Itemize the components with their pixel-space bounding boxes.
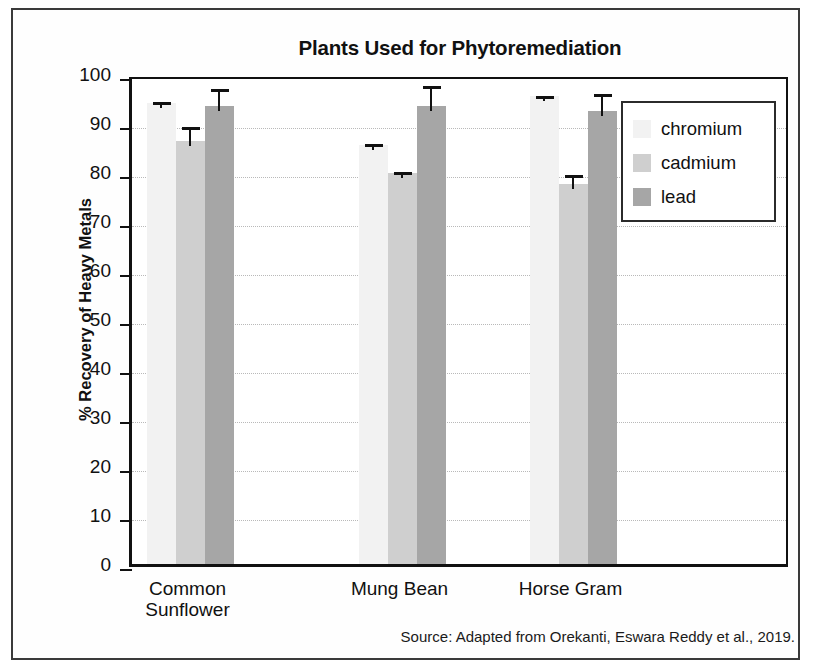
error-bar-stem <box>218 89 220 111</box>
bar <box>530 96 559 564</box>
y-axis-tick <box>120 422 132 424</box>
bar <box>176 141 205 564</box>
legend-label-cadmium: cadmium <box>661 152 736 174</box>
y-axis-tick <box>120 226 132 228</box>
bar <box>359 145 388 564</box>
y-axis-tick-label: 40 <box>51 358 111 380</box>
y-axis-tick-label: 50 <box>51 309 111 331</box>
y-axis-tick-label: 60 <box>51 260 111 282</box>
bar <box>205 106 234 564</box>
legend-item: cadmium <box>633 146 774 180</box>
legend-swatch-chromium <box>633 120 651 138</box>
y-axis-tick-label: 80 <box>51 162 111 184</box>
error-bar-cap <box>153 102 171 105</box>
y-axis-tick-label: 100 <box>51 64 111 86</box>
bar <box>417 106 446 564</box>
y-axis-tick <box>120 128 132 130</box>
chart-title: Plants Used for Phytoremediation <box>130 36 790 60</box>
y-axis-tick <box>120 177 132 179</box>
error-bar-cap <box>423 86 441 89</box>
y-axis-tick-label: 90 <box>51 113 111 135</box>
error-bar-cap <box>536 96 554 99</box>
chart-figure: Plants Used for Phytoremediation % Recov… <box>0 0 813 670</box>
error-bar-stem <box>430 86 432 111</box>
error-bar-stem <box>601 94 603 116</box>
error-bar-cap <box>594 94 612 97</box>
error-bar-cap <box>182 127 200 130</box>
x-axis-label: Horse Gram <box>461 578 681 599</box>
y-axis-tick-label: 20 <box>51 456 111 478</box>
error-bar-cap <box>565 175 583 178</box>
bar <box>559 184 588 564</box>
legend-label-chromium: chromium <box>661 118 742 140</box>
y-axis-tick <box>120 471 132 473</box>
error-bar-cap <box>211 89 229 92</box>
y-axis-tick <box>120 569 132 571</box>
chart-legend: chromium cadmium lead <box>621 101 776 222</box>
error-bar-cap <box>365 144 383 147</box>
x-axis-label: Common Sunflower <box>78 578 298 621</box>
legend-item: chromium <box>633 112 774 146</box>
source-note: Source: Adapted from Orekanti, Eswara Re… <box>0 628 795 645</box>
legend-label-lead: lead <box>661 186 696 208</box>
error-bar-cap <box>394 172 412 175</box>
bar <box>388 173 417 564</box>
y-axis-tick-label: 70 <box>51 211 111 233</box>
y-axis-tick-label: 30 <box>51 407 111 429</box>
y-axis-tick <box>120 79 132 81</box>
legend-swatch-lead <box>633 188 651 206</box>
y-axis-tick-label: 10 <box>51 505 111 527</box>
y-axis-tick <box>120 275 132 277</box>
y-axis-tick <box>120 373 132 375</box>
bar <box>588 111 617 564</box>
bar <box>147 103 176 564</box>
y-axis-tick-label: 0 <box>51 554 111 576</box>
legend-item: lead <box>633 180 774 214</box>
legend-swatch-cadmium <box>633 154 651 172</box>
y-axis-tick <box>120 520 132 522</box>
y-axis-tick <box>120 324 132 326</box>
